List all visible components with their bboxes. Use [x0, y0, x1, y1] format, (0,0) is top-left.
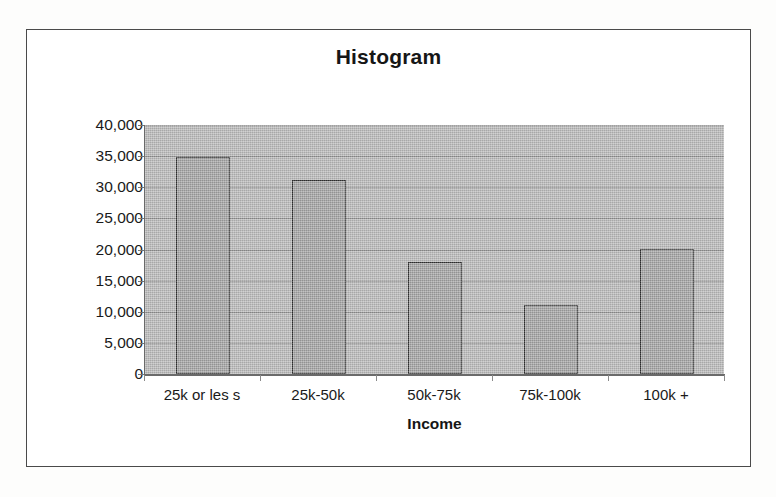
y-axis-tick-mark: [138, 343, 144, 344]
y-axis-tick-label: 30,000: [65, 178, 143, 196]
y-axis-tick-mark: [138, 218, 144, 219]
gridline: [145, 250, 724, 251]
x-axis-tick-mark: [260, 375, 261, 381]
scanned-page: Histogram Number of Households 05,00010,…: [0, 0, 776, 497]
y-axis-tick-label: 10,000: [65, 303, 143, 321]
x-axis-line: [144, 374, 725, 376]
y-axis-tick-mark: [138, 312, 144, 313]
x-axis-tick-label: 75k-100k: [519, 386, 581, 403]
x-axis-tick-mark: [144, 375, 145, 381]
y-axis-tick-mark: [138, 187, 144, 188]
bar: [408, 262, 461, 374]
x-axis-tick-mark: [608, 375, 609, 381]
y-axis-tick-mark: [138, 125, 144, 126]
gridline: [145, 218, 724, 219]
y-axis-tick-label: 40,000: [65, 116, 143, 134]
gridline: [145, 187, 724, 188]
plot-area: [144, 125, 724, 374]
y-axis-tick-label: 15,000: [65, 272, 143, 290]
y-axis-tick-label: 25,000: [65, 209, 143, 227]
y-axis-tick-mark: [138, 156, 144, 157]
chart-frame: Histogram Number of Households 05,00010,…: [26, 29, 751, 467]
x-axis-tick-label: 25k-50k: [291, 386, 344, 403]
x-axis-tick-mark: [376, 375, 377, 381]
y-axis-tick-label: 0: [65, 365, 143, 383]
x-axis-tick-mark: [724, 375, 725, 381]
y-axis-tick-label: 5,000: [65, 334, 143, 352]
y-axis-tick-label: 20,000: [65, 241, 143, 259]
y-axis-tick-mark: [138, 250, 144, 251]
y-axis-tick-mark: [138, 281, 144, 282]
gridline: [145, 156, 724, 157]
bar: [640, 249, 693, 374]
bar: [292, 180, 345, 374]
x-axis-tick-label: 50k-75k: [407, 386, 460, 403]
gridline: [145, 125, 724, 126]
y-axis-tick-label: 35,000: [65, 147, 143, 165]
x-axis-title: Income: [144, 415, 725, 433]
y-axis-tick-labels: 05,00010,00015,00020,00025,00030,00035,0…: [65, 115, 143, 365]
bar: [524, 305, 577, 374]
bar: [176, 157, 229, 374]
chart-title: Histogram: [27, 45, 750, 69]
x-axis-tick-label: 100k +: [643, 386, 688, 403]
x-axis-tick-label: 25k or les s: [164, 386, 241, 403]
x-axis-tick-mark: [492, 375, 493, 381]
